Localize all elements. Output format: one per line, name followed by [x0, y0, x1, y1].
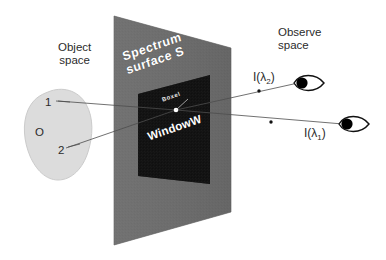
intensity-lambda-2-label: I(λ2) — [253, 71, 275, 87]
observer-eye-lambda-1 — [339, 117, 369, 132]
intensity-suffix: ) — [322, 126, 326, 140]
diagram-root: Object space Observe space 1 O 2 Spectru… — [0, 0, 386, 260]
ray-marker-lower — [269, 120, 272, 123]
observer-eye-lambda-2 — [294, 76, 324, 91]
object-point-2-label: 2 — [58, 144, 64, 157]
intensity-suffix: ) — [271, 70, 275, 84]
eye-pupil-icon — [341, 118, 352, 129]
intensity-lambda-1-label: I(λ1) — [304, 127, 326, 143]
ray-marker-upper — [257, 89, 260, 92]
object-center-label: O — [35, 126, 44, 139]
object-space-label: Object space — [58, 41, 91, 67]
eye-pupil-icon — [296, 77, 307, 88]
object-point-1-label: 1 — [45, 96, 51, 109]
observe-space-label: Observe space — [278, 26, 321, 52]
scene-svg — [0, 0, 386, 260]
